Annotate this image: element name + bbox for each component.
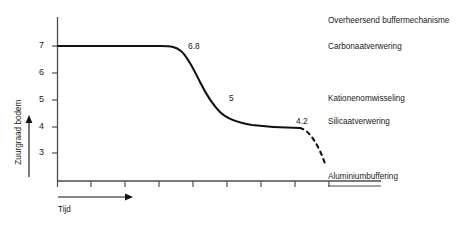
x-axis-ticks bbox=[58, 181, 330, 187]
curve-annotation-6-8: 6.8 bbox=[188, 42, 200, 50]
y-axis-title: Zuurgraad bodem bbox=[15, 92, 23, 172]
x-axis-arrow bbox=[58, 194, 133, 201]
y-tick-label-6: 6 bbox=[30, 68, 44, 77]
mechanism-header: Overheersend buffermechanisme bbox=[328, 17, 449, 25]
y-tick-label-3: 3 bbox=[30, 148, 44, 157]
ph-curve-solid bbox=[58, 46, 300, 128]
y-tick-label-7: 7 bbox=[30, 41, 44, 50]
x-axis-title: Tijd bbox=[58, 206, 71, 214]
mechanism-aluminiumbuffering: Aluminiumbuffering bbox=[328, 173, 398, 181]
mechanism-carbonaatverwering: Carbonaatverwering bbox=[328, 43, 402, 51]
y-tick-label-4: 4 bbox=[30, 122, 44, 131]
chart-plot-area bbox=[0, 0, 468, 225]
curve-annotation-5: 5 bbox=[229, 94, 234, 102]
mechanism-silicaatverwering: Silicaatverwering bbox=[328, 118, 390, 126]
y-tick-label-5: 5 bbox=[30, 95, 44, 104]
y-axis-ticks bbox=[52, 46, 58, 153]
curve-annotation-4-2: 4.2 bbox=[296, 117, 308, 125]
mechanism-kationenomwisseling: Kationenomwisseling bbox=[328, 95, 405, 103]
ph-curve-dashed bbox=[300, 128, 326, 166]
ph-buffering-chart: 7 6 5 4 3 6.8 5 4.2 Overheersend bufferm… bbox=[0, 0, 468, 225]
